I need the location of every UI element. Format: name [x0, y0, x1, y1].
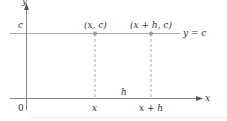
point-label-2: (x + h, c): [130, 20, 172, 30]
constant-function-diagram: y c (x, c) (x + h, c) y = c h x 0 x x + …: [0, 0, 227, 121]
y-intercept-label: c: [18, 20, 23, 30]
point-x-plus-h-c: [149, 32, 153, 36]
x-tick-label-2: x + h: [139, 103, 163, 113]
x-tick-label-1: x: [92, 103, 97, 113]
point-x-c: [93, 32, 97, 36]
point-label-1: (x, c): [84, 20, 107, 30]
x-axis-label: x: [205, 93, 210, 103]
interval-h-label: h: [121, 87, 127, 97]
y-axis-label: y: [21, 0, 28, 6]
line-equation-label: y = c: [182, 28, 206, 38]
x-axis-arrow-icon: [196, 96, 203, 101]
origin-label: 0: [18, 103, 24, 113]
